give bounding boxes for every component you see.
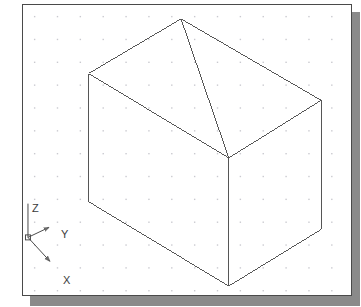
cad-screenshot-root: Z Y X: [0, 0, 361, 307]
cad-viewport[interactable]: Z Y X: [22, 4, 352, 296]
axis-label-z: Z: [32, 203, 39, 214]
axis-label-y: Y: [61, 229, 68, 240]
axis-label-x: X: [63, 275, 70, 286]
ucs-icon: [23, 5, 351, 295]
